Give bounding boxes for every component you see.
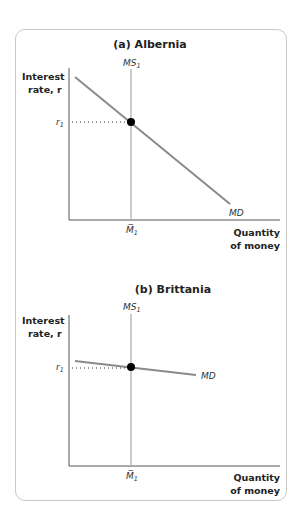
panel-a-money-demand-line [75, 77, 230, 204]
panel-b-m1-label: M̅1 [126, 470, 138, 483]
panel-b-md-label: MD [201, 371, 216, 381]
panel-a-albernia: (a) Albernia MS1 Interest rate, r r1 MD … [22, 38, 281, 251]
panel-a-ms-label: MS1 [123, 58, 141, 70]
panel-a-r1-label: r1 [56, 117, 64, 129]
panel-b-ms-label: MS1 [123, 302, 141, 314]
panel-b-y-axis-label-2: rate, r [28, 328, 62, 339]
panel-a-md-label: MD [229, 208, 244, 218]
panel-a-y-axis-label-2: rate, r [28, 84, 62, 95]
panel-b-x-axis-label-1: Quantity [233, 472, 280, 483]
panel-b-brittania: (b) Brittania MS1 Interest rate, r r1 MD… [22, 283, 281, 496]
panel-a-y-axis-label-1: Interest [22, 71, 65, 82]
panel-a-title: (a) Albernia [113, 38, 186, 51]
panel-a-equilibrium-point [127, 118, 135, 126]
panel-b-x-axis-label-2: of money [230, 485, 281, 496]
panel-b-title: (b) Brittania [135, 283, 211, 296]
panel-a-x-axis-label-2: of money [230, 240, 281, 251]
money-market-diagram: (a) Albernia MS1 Interest rate, r r1 MD … [0, 0, 303, 524]
panel-b-equilibrium-point [127, 363, 135, 371]
panel-a-m1-label: M̅1 [126, 224, 138, 237]
panel-a-x-axis-label-1: Quantity [233, 227, 280, 238]
panel-b-money-demand-line [75, 361, 196, 375]
panel-b-y-axis-label-1: Interest [22, 315, 65, 326]
panel-b-r1-label: r1 [56, 362, 64, 374]
